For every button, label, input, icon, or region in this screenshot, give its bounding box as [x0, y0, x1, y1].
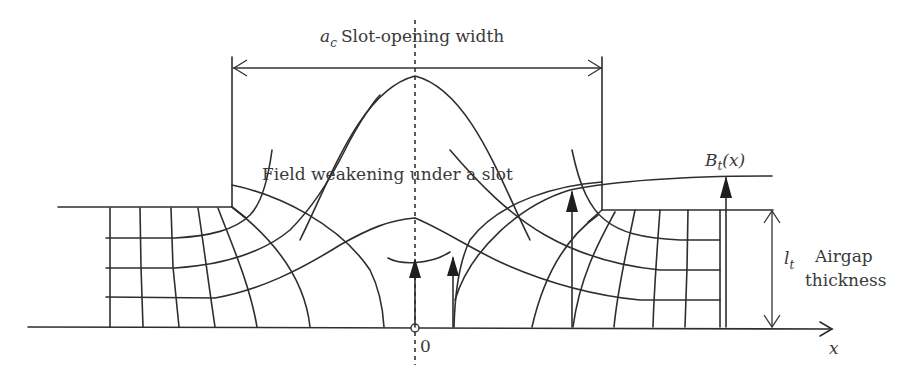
slot-opening-width-label: acSlot-opening width — [320, 26, 504, 50]
field-weakening-label: Field weakening under a slot — [262, 164, 513, 184]
x-axis-label: x — [829, 338, 839, 358]
flux-density-label: Bt(x) — [704, 150, 745, 173]
x-axis — [28, 322, 832, 336]
slot-width-dimension-arrow — [233, 60, 602, 76]
airgap-label-line2: thickness — [805, 270, 887, 290]
airgap-dimension-arrow — [764, 211, 780, 327]
slot-airgap-field-diagram: acSlot-opening width — [0, 0, 905, 375]
origin-label: 0 — [420, 336, 431, 356]
flux-arrows — [409, 176, 732, 327]
gap-symbol-label: lt — [784, 248, 794, 272]
center-min-curve — [388, 252, 450, 263]
left-flux-grid — [106, 95, 415, 327]
airgap-label-line1: Airgap — [814, 246, 873, 266]
